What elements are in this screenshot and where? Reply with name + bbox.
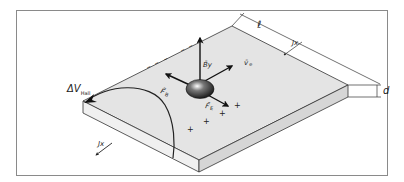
electron-sphere: [186, 80, 214, 99]
thickness-label: d: [383, 85, 390, 96]
svg-text:+: +: [203, 117, 210, 126]
current-right-label: Jx: [290, 39, 299, 47]
hall-effect-diagram: ℓ d Jx Jx ΔVHall – – – – – + + + +: [0, 0, 404, 182]
svg-text:+: +: [187, 125, 194, 134]
velocity-label: v̄e: [244, 59, 252, 67]
svg-text:+: +: [219, 109, 226, 118]
magnetic-field-label: B̄y: [203, 60, 213, 69]
current-front-label: Jx: [96, 140, 105, 148]
svg-text:+: +: [234, 101, 241, 110]
length-label: ℓ: [257, 19, 261, 30]
